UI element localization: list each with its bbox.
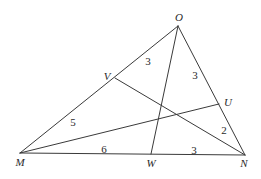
- triangle-diagram: O M N W V U 3 3 5 2 6 3: [0, 0, 261, 179]
- length-label-MW: 6: [101, 143, 107, 155]
- length-label-UN: 2: [221, 124, 227, 136]
- length-label-OU: 3: [192, 69, 198, 81]
- length-labels: 3 3 5 2 6 3: [70, 55, 227, 156]
- point-label-U: U: [224, 96, 233, 108]
- segments: [20, 26, 245, 155]
- point-label-N: N: [239, 157, 248, 169]
- segment-OW: [151, 26, 178, 154]
- point-label-W: W: [146, 157, 156, 169]
- length-label-WN: 3: [191, 144, 197, 156]
- length-label-VM: 5: [70, 116, 76, 128]
- segment-MN: [20, 153, 245, 155]
- length-label-OV: 3: [145, 55, 151, 67]
- point-label-O: O: [175, 11, 183, 23]
- point-label-M: M: [14, 156, 25, 168]
